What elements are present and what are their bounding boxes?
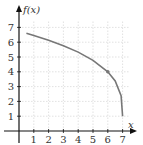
svg-text:5: 5 [8, 52, 14, 63]
svg-text:3: 3 [60, 134, 66, 145]
svg-text:7: 7 [8, 22, 14, 33]
svg-text:6: 6 [8, 37, 14, 48]
function-graph: 12345671234567 f(x) x [0, 0, 143, 145]
svg-text:3: 3 [8, 81, 14, 92]
svg-text:4: 4 [75, 134, 81, 145]
svg-text:1: 1 [31, 134, 37, 145]
svg-text:4: 4 [8, 66, 14, 77]
x-axis-label: x [128, 119, 134, 130]
svg-text:6: 6 [105, 134, 111, 145]
svg-text:2: 2 [8, 96, 14, 107]
function-curve [26, 33, 122, 116]
svg-text:2: 2 [45, 134, 51, 145]
svg-text:5: 5 [90, 134, 96, 145]
axes [4, 5, 137, 143]
highlighted-point [106, 70, 110, 74]
svg-text:7: 7 [119, 134, 125, 145]
svg-text:1: 1 [8, 111, 14, 122]
y-axis-label: f(x) [22, 4, 40, 15]
